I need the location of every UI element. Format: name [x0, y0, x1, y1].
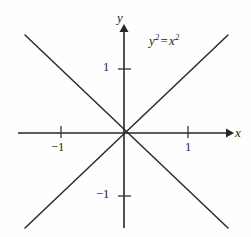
- equation-annotation: y2=x2: [149, 33, 179, 47]
- equation-equals-sign: =: [159, 33, 169, 48]
- figure-canvas: y x 1 −1 1 −1 y2=x2: [0, 0, 251, 237]
- y-tick-label-negative-one: −1: [96, 188, 109, 201]
- x-tick-label-negative-one: −1: [51, 141, 64, 154]
- x-tick-label-positive-one: 1: [185, 141, 191, 154]
- y-axis-arrow-icon: [120, 24, 129, 32]
- equation-x-exponent: 2: [175, 32, 179, 42]
- y-tick-label-positive-one: 1: [103, 61, 109, 74]
- x-axis-arrow-icon: [226, 129, 234, 138]
- x-axis-label: x: [235, 126, 241, 139]
- y-axis-label: y: [117, 11, 123, 24]
- plot-svg: [0, 0, 251, 237]
